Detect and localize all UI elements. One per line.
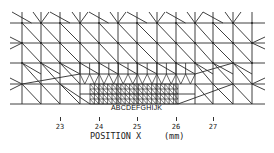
x-tick-mark [176, 117, 177, 121]
x-tick-mark [137, 117, 138, 121]
x-tick-mark [60, 117, 61, 121]
x-tick-mark [213, 117, 214, 121]
x-axis-unit: (mm) [164, 131, 184, 141]
x-tick-mark [99, 117, 100, 121]
mesh-figure: ABCDEFGHIJK 2324252627 POSITION X (mm) [0, 0, 274, 153]
x-tick-label: 27 [209, 123, 217, 131]
x-tick-label: 24 [95, 123, 103, 131]
x-axis-title: POSITION X [90, 131, 141, 141]
x-tick-label: 23 [56, 123, 64, 131]
x-tick-label: 25 [133, 123, 141, 131]
x-tick-label: 26 [172, 123, 180, 131]
node-labels: ABCDEFGHIJK [111, 104, 162, 111]
